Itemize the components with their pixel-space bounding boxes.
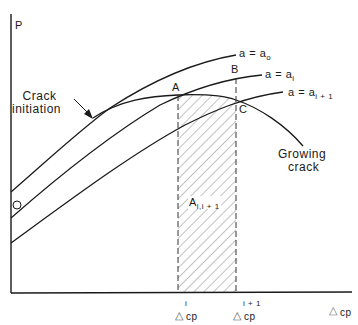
crack-initiation-line1: Crack bbox=[18, 90, 61, 102]
curve-ai-label: a = ai bbox=[265, 69, 295, 80]
point-b-label: B bbox=[231, 64, 239, 75]
point-c-label: C bbox=[239, 104, 247, 115]
point-a-label: A bbox=[172, 82, 180, 93]
origin-marker bbox=[13, 201, 21, 209]
x-axis bbox=[11, 292, 352, 293]
curve-a0-label: a = ao bbox=[239, 48, 271, 59]
growing-crack-line2: crack bbox=[288, 161, 326, 173]
x-tick-i1: i + 1 △ cp bbox=[233, 300, 273, 322]
growing-crack-line1: Growing bbox=[278, 148, 326, 160]
curve-ai1-label: a = ai + 1 bbox=[288, 87, 333, 98]
area-label: Ai,i + 1 bbox=[188, 196, 221, 209]
y-axis-label: P bbox=[15, 20, 23, 31]
x-tick-i: i △ cp bbox=[175, 300, 205, 322]
crack-initiation-label: Crack initiation bbox=[18, 90, 61, 115]
crack-initiation-line2: initiation bbox=[12, 103, 61, 115]
x-axis-label: △ cp bbox=[329, 305, 358, 321]
growing-crack-label: Growing crack bbox=[278, 148, 326, 173]
